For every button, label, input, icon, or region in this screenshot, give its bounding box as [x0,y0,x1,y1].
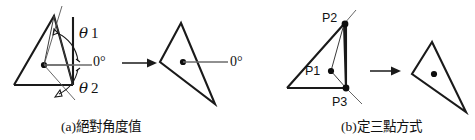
zero-degree-label-result-a: 0° [230,54,243,69]
result-triangle-a-outline [160,23,215,104]
theta1-index: 1 [91,25,99,41]
theta2-index: 2 [91,80,99,96]
point-p2-dot [342,21,349,28]
panel-b-caption: (b)定三點方式 [341,119,423,134]
panel-b-result-group [412,42,466,112]
panel-b-source-group: P1 P2 P3 [287,10,362,109]
result-triangle-b-outline [412,42,466,112]
panel-b-arrow-head [391,67,401,76]
panel-a-source-group: θ 1 0° θ 2 [14,6,106,100]
panel-b-transition-arrow [370,67,401,76]
zero-degree-label-a: 0° [93,54,106,69]
panel-a-transition-arrow [122,59,157,68]
point-p2-label: P2 [322,11,337,25]
theta2-arc [59,69,78,94]
diagram-canvas: θ 1 0° θ 2 0° (a)絕對角度值 [0,0,475,140]
point-p3-dot [343,85,350,92]
panel-a-caption: (a)絕對角度值 [61,119,141,134]
theta2-arc-head [55,90,62,97]
panel-b-caption-text: (b)定三點方式 [341,119,423,134]
panel-a-result-group: 0° [160,23,243,104]
source-triangle-a-outline [14,16,73,85]
point-p1-label: P1 [305,64,320,78]
panel-a-caption-text: (a)絕對角度值 [61,119,141,134]
point-p3-label: P3 [332,95,347,109]
figure-root: θ 1 0° θ 2 0° (a)絕對角度值 [0,0,475,140]
panel-a-arrow-head [147,59,157,68]
point-p1-dot [328,68,334,74]
result-b-center-dot [431,71,437,77]
theta2-symbol: θ [79,79,88,97]
theta2-direction-ray [44,65,75,100]
theta1-symbol: θ [79,24,88,42]
